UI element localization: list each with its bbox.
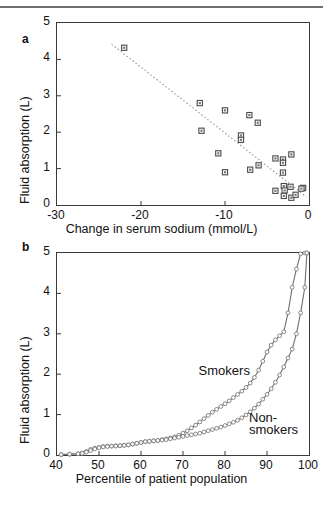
panel-b-x-axis-label: Percentile of patient population: [0, 472, 323, 486]
panel-b-annotation-smokers: Smokers: [199, 364, 250, 377]
panel-a-x-tick--20: -20: [125, 208, 155, 222]
panel-b-y-tick-1: 1: [34, 406, 50, 420]
panel-b-y-tick-4: 4: [34, 284, 50, 298]
panel-b-x-tick-60: 60: [125, 458, 155, 472]
panel-b-y-tick-0: 0: [34, 446, 50, 460]
panel-b-annotation-smokers: smokers: [249, 423, 298, 436]
panel-b-y-tick-5: 5: [34, 244, 50, 258]
panel-a-x-tick--10: -10: [209, 208, 239, 222]
panel-b-line-chart: b Fluid absorption (L) 405060708090100 0…: [0, 232, 323, 510]
panel-a-y-tick-5: 5: [34, 14, 50, 28]
panel-a-x-tick--30: -30: [41, 208, 71, 222]
panel-a-data-layer: [57, 23, 309, 205]
panel-b-x-tick-80: 80: [209, 458, 239, 472]
panel-a-letter: a: [22, 32, 29, 46]
panel-b-x-tick-100: 100: [293, 458, 323, 472]
panel-b-y-axis-label: Fluid absorption (L): [18, 336, 32, 444]
panel-b-y-tick-2: 2: [34, 365, 50, 379]
panel-a-plot-area: [56, 22, 310, 206]
panel-a-y-axis-label: Fluid absorption (L): [18, 96, 32, 204]
panel-a-y-tick-0: 0: [34, 196, 50, 210]
top-divider-rule: [0, 6, 323, 8]
panel-a-scatter-chart: a Fluid absorption (L) -30-20-100 012345…: [0, 14, 323, 230]
panel-b-letter: b: [22, 240, 29, 254]
panel-b-x-tick-90: 90: [251, 458, 281, 472]
panel-a-x-tick-0: 0: [293, 208, 323, 222]
panel-a-y-tick-4: 4: [34, 50, 50, 64]
panel-b-y-tick-3: 3: [34, 325, 50, 339]
panel-a-y-tick-1: 1: [34, 160, 50, 174]
panel-a-y-tick-3: 3: [34, 87, 50, 101]
panel-b-x-tick-50: 50: [83, 458, 113, 472]
panel-b-x-tick-70: 70: [167, 458, 197, 472]
panel-a-y-tick-2: 2: [34, 123, 50, 137]
panel-b-x-tick-40: 40: [41, 458, 71, 472]
